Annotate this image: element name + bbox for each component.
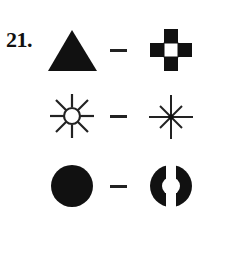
dash-separator xyxy=(110,49,127,52)
analogy-figure xyxy=(0,0,251,267)
dash-separator xyxy=(110,115,127,118)
filled-circle-icon xyxy=(51,165,93,207)
filled-triangle-icon xyxy=(48,30,97,71)
sun-icon xyxy=(50,94,94,138)
dash-separator xyxy=(110,185,127,188)
cross-squares-icon xyxy=(150,29,192,71)
split-circle-icon xyxy=(150,163,192,209)
asterisk-icon xyxy=(149,95,193,139)
